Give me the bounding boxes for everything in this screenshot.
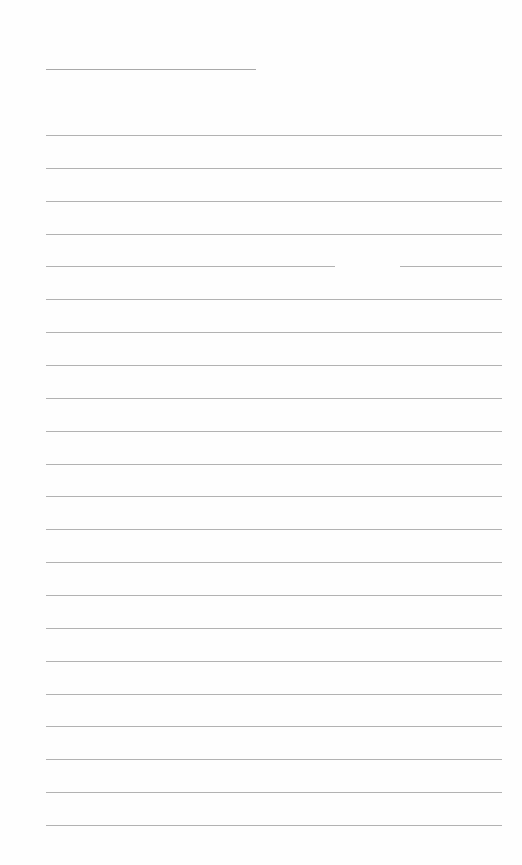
ruled-line [46, 365, 502, 366]
ruled-line [46, 431, 502, 432]
ruled-line [46, 266, 502, 267]
ruled-line [46, 398, 502, 399]
line-gap [335, 266, 400, 267]
ruled-line [46, 726, 502, 727]
ruled-line [46, 759, 502, 760]
ruled-line [46, 332, 502, 333]
ruled-line [46, 135, 502, 136]
ruled-line [46, 464, 502, 465]
ruled-line [46, 299, 502, 300]
ruled-line [46, 628, 502, 629]
title-underline [46, 69, 256, 70]
ruled-line [46, 529, 502, 530]
ruled-line [46, 792, 502, 793]
ruled-line [46, 595, 502, 596]
ruled-line [46, 168, 502, 169]
ruled-line [46, 201, 502, 202]
ruled-line [46, 562, 502, 563]
ruled-line [46, 661, 502, 662]
title-field[interactable] [46, 50, 256, 68]
ruled-line [46, 234, 502, 235]
ruled-line [46, 694, 502, 695]
lined-page [0, 0, 522, 865]
ruled-line [46, 825, 502, 826]
ruled-line [46, 496, 502, 497]
